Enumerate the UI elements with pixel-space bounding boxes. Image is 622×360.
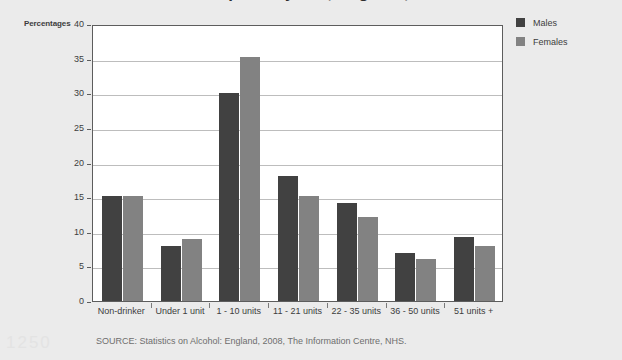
chart-legend: Males Females [516, 15, 568, 53]
x-axis-separator [327, 303, 328, 308]
y-axis-tick-label: 15 [58, 192, 84, 202]
page-title-cropped: Alcohol consumption by sex, England, 200… [0, 0, 622, 9]
x-axis-separator [268, 303, 269, 308]
bar-females [416, 259, 436, 301]
y-axis-tick-mark [87, 94, 91, 95]
y-axis-tick-mark [87, 233, 91, 234]
source-note: SOURCE: Statistics on Alcohol: England, … [96, 336, 407, 346]
bar-females [299, 196, 319, 301]
x-axis-category-label: Under 1 unit [151, 306, 210, 316]
y-axis-tick-label: 35 [58, 54, 84, 64]
y-axis-tick-label: 10 [58, 227, 84, 237]
x-axis-separator [386, 303, 387, 308]
bar-females [182, 239, 202, 301]
scan-artifact: 1250 [6, 333, 52, 353]
x-axis-category-label: 1 - 10 units [209, 306, 268, 316]
bar-males [278, 176, 298, 301]
legend-swatch-males-icon [516, 18, 525, 27]
y-axis-tick-mark [87, 129, 91, 130]
bar-males [219, 93, 239, 301]
legend-label-males: Males [533, 18, 557, 28]
bar-females [240, 57, 260, 301]
x-axis-category-label: Non-drinker [92, 306, 151, 316]
gridline [93, 95, 502, 96]
chart-plot-area [92, 25, 503, 302]
legend-swatch-females-icon [516, 37, 525, 46]
y-axis-tick-label: 5 [58, 261, 84, 271]
y-axis-tick-label: 20 [58, 158, 84, 168]
legend-item-females: Females [516, 34, 568, 49]
x-axis-category-label: 11 - 21 units [268, 306, 327, 316]
bar-males [395, 253, 415, 301]
y-axis-tick-mark [87, 198, 91, 199]
bar-males [337, 203, 357, 301]
x-axis-separator [209, 303, 210, 308]
legend-label-females: Females [533, 37, 568, 47]
y-axis-tick-label: 30 [58, 88, 84, 98]
y-axis-tick-label: 40 [58, 19, 84, 29]
y-axis-tick-mark [87, 302, 91, 303]
x-axis-category-label: 36 - 50 units [386, 306, 445, 316]
bar-males [161, 246, 181, 301]
gridline [93, 165, 502, 166]
bar-females [475, 246, 495, 301]
gridline [93, 61, 502, 62]
x-axis-separator [444, 303, 445, 308]
y-axis-tick-label: 0 [58, 296, 84, 306]
x-axis-separator [151, 303, 152, 308]
bar-females [358, 217, 378, 301]
bar-males [102, 196, 122, 301]
bar-females [123, 196, 143, 301]
y-axis-tick-label: 25 [58, 123, 84, 133]
y-axis-tick-mark [87, 25, 91, 26]
x-axis-category-label: 51 units + [444, 306, 503, 316]
gridline [93, 130, 502, 131]
y-axis-tick-mark [87, 164, 91, 165]
page-title-text: Alcohol consumption by sex, England, 200… [96, 0, 451, 3]
y-axis-tick-mark [87, 60, 91, 61]
x-axis-category-label: 22 - 35 units [327, 306, 386, 316]
bar-males [454, 237, 474, 301]
legend-item-males: Males [516, 15, 568, 30]
y-axis-tick-mark [87, 267, 91, 268]
